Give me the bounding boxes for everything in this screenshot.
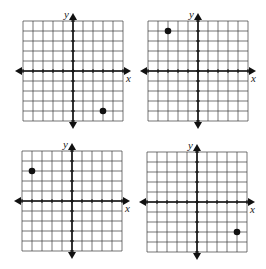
y-axis-label: y (187, 139, 193, 151)
coordinate-plane-3: xy (10, 139, 134, 263)
plotted-point (29, 168, 36, 175)
x-axis-left-arrow-icon (14, 197, 21, 205)
y-axis-down-arrow-icon (69, 122, 77, 129)
x-axis-left-arrow-icon (140, 67, 147, 75)
y-axis-up-arrow-icon (194, 13, 202, 20)
y-axis-label: y (63, 8, 69, 20)
coordinate-plane-1: xy (11, 9, 135, 133)
x-axis-label: x (125, 72, 131, 84)
y-axis-up-arrow-icon (193, 144, 201, 151)
x-axis-left-arrow-icon (15, 67, 22, 75)
x-axis-label: x (124, 202, 130, 214)
x-axis-label: x (250, 72, 256, 84)
y-axis-label: y (62, 138, 68, 150)
y-axis-up-arrow-icon (68, 143, 76, 150)
y-axis-up-arrow-icon (69, 13, 77, 20)
y-axis-down-arrow-icon (68, 252, 76, 259)
coordinate-plane-4: xy (135, 140, 259, 264)
y-axis-label: y (188, 8, 194, 20)
x-axis-label: x (249, 203, 255, 215)
y-axis-down-arrow-icon (193, 253, 201, 260)
coordinate-plane-2: xy (136, 9, 260, 133)
plotted-point (165, 28, 172, 35)
y-axis-down-arrow-icon (194, 122, 202, 129)
x-axis-left-arrow-icon (139, 198, 146, 206)
plotted-point (100, 108, 107, 115)
plotted-point (234, 229, 241, 236)
